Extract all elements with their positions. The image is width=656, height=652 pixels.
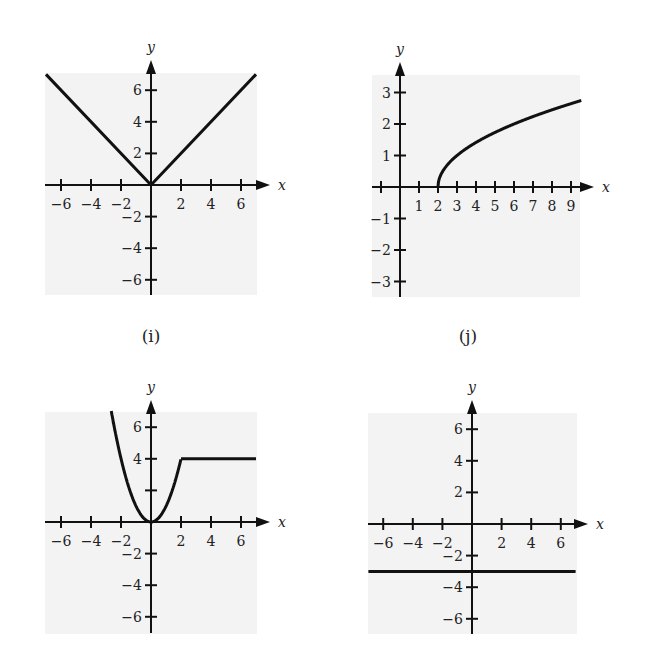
x-axis-label: x (596, 516, 604, 532)
x-tick-label: −4 (81, 533, 102, 549)
x-tick-label: −6 (373, 535, 394, 551)
y-tick-label: 6 (133, 419, 142, 435)
y-tick-label: −3 (370, 274, 391, 290)
x-tick-label: 3 (453, 198, 462, 214)
caption-j: (j) (459, 326, 478, 346)
y-tick-label: 6 (133, 82, 142, 98)
y-tick-label: −4 (442, 579, 463, 595)
x-tick-label: 4 (207, 196, 216, 212)
y-tick-label: −2 (370, 242, 391, 258)
x-tick-label: 1 (415, 198, 424, 214)
x-axis-label: x (278, 514, 286, 530)
x-tick-label: −4 (81, 196, 102, 212)
x-tick-label: −6 (51, 196, 72, 212)
y-axis-label: y (146, 39, 156, 55)
plot-horizontal-line: xy−6−4−2246−6−4−2246 (368, 379, 604, 634)
x-tick-label: 2 (177, 533, 186, 549)
y-tick-label: 4 (133, 114, 142, 130)
x-axis-arrow-icon (256, 180, 270, 190)
y-tick-label: 4 (133, 451, 142, 467)
y-tick-label: −1 (370, 211, 391, 227)
x-tick-label: 8 (548, 198, 557, 214)
x-tick-label: 5 (491, 198, 500, 214)
plot-abs-x: xy−6−4−2246−6−4−2246 (45, 39, 286, 295)
y-tick-label: 2 (454, 484, 463, 500)
x-tick-label: 2 (497, 535, 506, 551)
x-tick-label: 6 (237, 196, 246, 212)
x-tick-label: 4 (527, 535, 536, 551)
y-tick-label: −2 (121, 209, 142, 225)
plot-sqrt-x-minus-2: xy123456789−3−2−1123 (370, 41, 610, 297)
y-tick-label: 3 (382, 85, 391, 101)
y-tick-label: 4 (454, 453, 463, 469)
y-axis-arrow-icon (467, 400, 477, 414)
x-tick-label: −4 (402, 535, 423, 551)
y-axis-arrow-icon (395, 62, 405, 76)
y-tick-label: 2 (133, 145, 142, 161)
y-axis-arrow-icon (146, 400, 156, 414)
y-tick-label: 1 (382, 148, 391, 164)
y-axis-label: y (146, 379, 156, 395)
x-tick-label: 9 (567, 198, 576, 214)
x-tick-label: 6 (556, 535, 565, 551)
x-tick-label: 6 (237, 533, 246, 549)
y-axis-label: y (467, 379, 477, 395)
y-axis-label: y (395, 41, 405, 57)
y-tick-label: −2 (442, 548, 463, 564)
x-axis-label: x (602, 179, 610, 195)
y-axis-arrow-icon (146, 60, 156, 74)
y-tick-label: −6 (442, 611, 463, 627)
y-tick-label: −2 (121, 546, 142, 562)
y-tick-label: −4 (121, 577, 142, 593)
x-axis-arrow-icon (580, 182, 594, 192)
y-tick-label: −6 (121, 272, 142, 288)
x-tick-label: 2 (434, 198, 443, 214)
x-tick-label: 6 (510, 198, 519, 214)
y-tick-label: 6 (454, 421, 463, 437)
y-tick-label: 2 (382, 116, 391, 132)
x-tick-label: 7 (529, 198, 538, 214)
figure-grid: xy−6−4−2246−6−4−2246 xy123456789−3−2−112… (0, 0, 656, 652)
x-axis-arrow-icon (256, 517, 270, 527)
x-axis-arrow-icon (574, 519, 588, 529)
x-tick-label: 4 (472, 198, 481, 214)
y-tick-label: −6 (121, 609, 142, 625)
caption-i: (i) (142, 326, 161, 346)
plot-piecewise-parabola: xy−6−4−2246−6−4−246 (45, 379, 286, 634)
x-tick-label: −6 (51, 533, 72, 549)
y-tick-label: −4 (121, 240, 142, 256)
x-axis-label: x (278, 177, 286, 193)
x-tick-label: 4 (207, 533, 216, 549)
x-tick-label: 2 (177, 196, 186, 212)
